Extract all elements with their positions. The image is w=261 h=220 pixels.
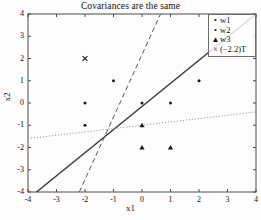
y-tick-label: -1 (10, 120, 24, 129)
x-tick-label: 0 (135, 195, 149, 204)
x-tick-label: 1 (164, 195, 178, 204)
chart-canvas: Covariances are the same x1 x2 • w1 • w2… (0, 0, 261, 220)
legend-item: • w2 (211, 26, 253, 36)
y-tick-label: -2 (10, 143, 24, 152)
x-tick-label: -3 (50, 195, 64, 204)
data-point-(-2.2)T (83, 56, 88, 61)
data-point-w1 (84, 124, 87, 127)
x-tick-label: 3 (221, 195, 235, 204)
data-point-w1 (84, 102, 87, 105)
legend-marker-w3: ▲ (211, 35, 220, 45)
data-point-w2 (169, 102, 172, 105)
y-axis-label: x2 (2, 82, 12, 112)
chart-legend: • w1 • w2 ▲ w3 × (−2.2)T (208, 14, 256, 57)
data-point-w3 (168, 145, 173, 150)
legend-label-test-point: (−2.2)T (220, 45, 246, 55)
x-tick-label: 4 (249, 195, 261, 204)
data-point-w1 (112, 79, 115, 82)
y-tick-label: 4 (10, 9, 24, 18)
data-point-w3 (139, 145, 144, 150)
data-point-w3 (139, 123, 144, 128)
y-tick-label: 0 (10, 98, 24, 107)
x-axis-label: x1 (0, 203, 261, 213)
x-tick-label: -4 (21, 195, 35, 204)
y-tick-label: 3 (10, 31, 24, 40)
legend-item: × (−2.2)T (211, 45, 253, 55)
y-tick-label: 1 (10, 76, 24, 85)
x-tick-label: -1 (107, 195, 121, 204)
legend-marker-w1: • (211, 16, 220, 26)
legend-marker-w2: • (211, 26, 220, 36)
data-point-w2 (141, 102, 144, 105)
data-point-w2 (198, 79, 201, 82)
legend-item: • w1 (211, 16, 253, 26)
legend-marker-test-point: × (211, 45, 220, 55)
boundary-dashed (79, 14, 160, 192)
y-tick-label: 2 (10, 54, 24, 63)
x-tick-label: -2 (78, 195, 92, 204)
x-tick-label: 2 (192, 195, 206, 204)
y-tick-label: -3 (10, 165, 24, 174)
